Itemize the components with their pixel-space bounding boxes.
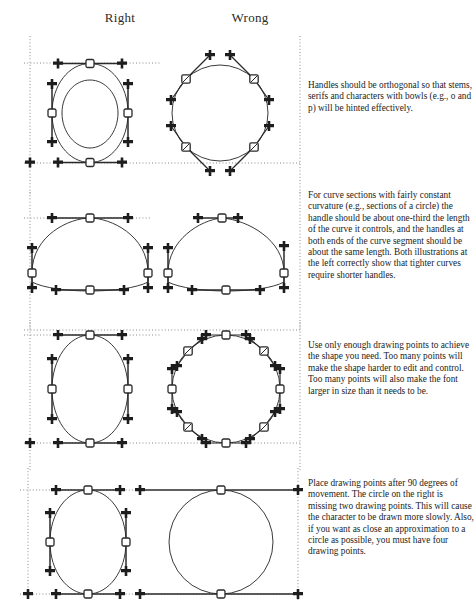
handle-end-icon <box>53 330 63 340</box>
curve-arch-left-side <box>168 218 222 273</box>
annotation-row-4: Place drawing points after 90 degrees of… <box>308 478 474 558</box>
drawing-point <box>217 486 225 494</box>
drawing-point <box>86 214 94 222</box>
handle-end-icon <box>53 438 63 448</box>
handle-end-icon <box>123 137 133 147</box>
drawing-point <box>260 423 268 431</box>
handle-end-icon <box>233 213 243 223</box>
drawing-point <box>122 538 130 546</box>
handle-end-icon <box>53 59 63 69</box>
right-example-circle-r4 <box>23 485 131 599</box>
drawing-point <box>222 331 230 339</box>
handle-end-icon <box>123 414 133 424</box>
drawing-point <box>86 439 94 447</box>
curve-outline <box>62 80 118 148</box>
handle-end-icon <box>193 213 203 223</box>
handle-end-icon <box>47 213 57 223</box>
handle-end-icon <box>135 589 145 599</box>
right-example-circle-r1 <box>25 59 133 168</box>
handle-end-icon <box>47 354 57 364</box>
handle-end-icon <box>47 414 57 424</box>
handle-end-icon <box>123 213 133 223</box>
drawing-point <box>260 347 268 355</box>
handle-end-icon <box>163 243 173 253</box>
curve-circle <box>169 490 273 594</box>
handle-end-icon <box>119 285 129 295</box>
handle-end-icon <box>187 285 197 295</box>
drawing-point <box>48 109 56 117</box>
curve-arch-right-side <box>222 218 284 273</box>
annotation-row-1: Handles should be orthogonal so that ste… <box>308 80 474 114</box>
handle-end-icon <box>117 438 127 448</box>
right-example-arch-r2 <box>27 213 153 295</box>
drawing-point <box>276 385 284 393</box>
handle-end-icon <box>121 566 131 576</box>
drawing-point <box>86 159 94 167</box>
handle-end-icon <box>115 485 125 495</box>
drawing-point <box>84 590 92 598</box>
wrong-example-circle-r3 <box>167 330 285 448</box>
drawing-point <box>182 75 190 83</box>
handle-end-icon <box>163 283 173 293</box>
drawing-point <box>280 269 288 277</box>
drawing-point <box>86 331 94 339</box>
row-4-illustration <box>20 468 303 600</box>
handle-end-icon <box>293 485 303 495</box>
handle-end-icon <box>51 589 61 599</box>
handle-end-icon <box>47 79 57 89</box>
drawing-point <box>222 439 230 447</box>
handle-end-icon <box>123 79 133 89</box>
handle-end-icon <box>47 137 57 147</box>
wrong-example-circle-r1 <box>166 50 274 176</box>
handle-end-icon <box>45 566 55 576</box>
drawing-point <box>84 486 92 494</box>
annotation-row-2: For curve sections with fairly constant … <box>308 190 474 281</box>
handle-end-icon <box>279 241 289 251</box>
row-2-illustration <box>24 192 300 330</box>
row-3-illustration <box>24 322 300 472</box>
curve-arch-top <box>32 218 148 282</box>
drawing-point <box>250 75 258 83</box>
curve-circle <box>50 490 126 594</box>
handle-end-icon <box>143 283 153 293</box>
handle-end-icon <box>135 485 145 495</box>
handle-end-icon <box>121 508 131 518</box>
drawing-point <box>46 538 54 546</box>
drawing-point <box>217 590 225 598</box>
annotation-row-3: Use only enough drawing points to achiev… <box>308 340 474 397</box>
handle-end-icon <box>51 285 61 295</box>
handle-end-icon <box>53 158 63 168</box>
drawing-point <box>184 423 192 431</box>
handle-end-icon <box>123 354 133 364</box>
drawing-point <box>86 286 94 294</box>
right-example-circle-r3 <box>25 330 133 448</box>
drawing-point <box>218 214 226 222</box>
handle-end-icon <box>117 158 127 168</box>
handle-end-icon <box>117 59 127 69</box>
wrong-example-arch-r2 <box>163 213 289 295</box>
handle-end-icon <box>27 283 37 293</box>
handle-end-icon <box>27 243 37 253</box>
wrong-example-circle-r4 <box>135 485 303 599</box>
handle-end-icon <box>293 589 303 599</box>
drawing-point <box>222 286 230 294</box>
curve-circle <box>52 335 128 443</box>
drawing-point <box>164 269 172 277</box>
drawing-point <box>144 269 152 277</box>
handle-end-icon <box>143 243 153 253</box>
guide-origin-icon <box>25 158 35 168</box>
handle-end-icon <box>255 285 265 295</box>
drawing-point <box>28 269 36 277</box>
row-1-illustration <box>24 36 300 196</box>
drawing-point <box>182 143 190 151</box>
figure-page: Right Wrong <box>0 0 476 610</box>
handle-end-icon <box>115 589 125 599</box>
drawing-point <box>124 385 132 393</box>
guide-origin-icon <box>25 438 35 448</box>
handle-end-icon <box>45 508 55 518</box>
drawing-point <box>86 60 94 68</box>
drawing-point <box>48 385 56 393</box>
drawing-point <box>124 109 132 117</box>
drawing-point <box>168 385 176 393</box>
handle-end-icon <box>51 485 61 495</box>
